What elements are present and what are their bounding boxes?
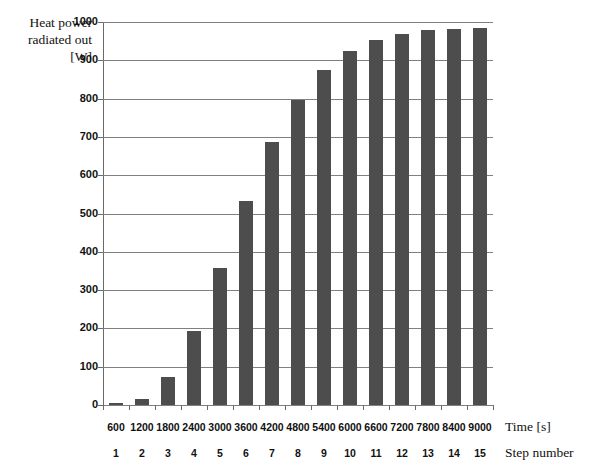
x-axis-time-label: 9000 xyxy=(468,421,491,433)
x-axis-step-label: 10 xyxy=(344,447,356,459)
x-axis-tick-mark xyxy=(389,405,390,410)
x-axis-time-label: 6000 xyxy=(338,421,361,433)
y-axis-tick-label: 0 xyxy=(58,398,98,410)
x-axis-time-label: 7800 xyxy=(416,421,439,433)
bar xyxy=(291,100,305,405)
y-axis-tick-label: 700 xyxy=(58,130,98,142)
x-axis-time-label: 3600 xyxy=(234,421,257,433)
bar xyxy=(213,268,227,405)
x-axis-tick-mark xyxy=(311,405,312,410)
x-axis-time-label: 8400 xyxy=(442,421,465,433)
bar xyxy=(473,28,487,405)
x-axis-step-label: 1 xyxy=(113,447,119,459)
bar xyxy=(265,142,279,406)
bar xyxy=(317,70,331,405)
x-axis-time-label: 600 xyxy=(107,421,125,433)
x-axis-tick-mark xyxy=(363,405,364,410)
x-axis-tick-marks xyxy=(103,405,494,411)
bar xyxy=(239,201,253,405)
y-axis-tick-label: 400 xyxy=(58,245,98,257)
x-axis-step-label: 9 xyxy=(321,447,327,459)
bar xyxy=(395,34,409,405)
x-axis-step-label: 14 xyxy=(448,447,460,459)
x-axis-tick-mark xyxy=(259,405,260,410)
bar xyxy=(161,377,175,405)
x-axis-tick-mark xyxy=(337,405,338,410)
bar-chart: Heat power radiated out [W] 010020030040… xyxy=(0,0,612,476)
x-axis-step-label: 15 xyxy=(474,447,486,459)
x-axis-time-label: 3000 xyxy=(208,421,231,433)
x-axis-step-label: 6 xyxy=(243,447,249,459)
x-axis-tick-mark xyxy=(129,405,130,410)
x-axis-tick-mark xyxy=(181,405,182,410)
y-axis-tick-label: 900 xyxy=(58,53,98,65)
x-axis-tick-mark xyxy=(285,405,286,410)
x-axis-step-label: 12 xyxy=(396,447,408,459)
y-axis-tick-label: 100 xyxy=(58,360,98,372)
x-axis-time-label: 1200 xyxy=(130,421,153,433)
x-axis-step-label: 3 xyxy=(165,447,171,459)
y-axis-tick-label: 600 xyxy=(58,168,98,180)
x-axis-tick-mark xyxy=(155,405,156,410)
x-axis-step-label: 7 xyxy=(269,447,275,459)
plot-area xyxy=(103,22,493,405)
y-axis-tick-labels: 01002003004005006007008009001000 xyxy=(53,22,98,405)
bar xyxy=(187,331,201,405)
x-axis-step-label: 4 xyxy=(191,447,197,459)
x-axis-tick-mark xyxy=(467,405,468,410)
x-axis-title-time: Time [s] xyxy=(505,419,551,435)
bar xyxy=(447,29,461,405)
y-axis-tick-label: 500 xyxy=(58,207,98,219)
y-axis-tick-label: 300 xyxy=(58,283,98,295)
x-axis-title-step: Step number xyxy=(505,445,574,461)
x-axis-tick-mark xyxy=(103,405,104,410)
x-axis-time-label: 2400 xyxy=(182,421,205,433)
x-axis-step-label: 13 xyxy=(422,447,434,459)
bar xyxy=(421,30,435,405)
gridline xyxy=(103,22,493,23)
x-axis-step-label: 2 xyxy=(139,447,145,459)
x-axis-step-label: 8 xyxy=(295,447,301,459)
x-axis-time-label: 6600 xyxy=(364,421,387,433)
x-axis-time-label: 7200 xyxy=(390,421,413,433)
x-axis-time-label: 1800 xyxy=(156,421,179,433)
x-axis-time-label: 5400 xyxy=(312,421,335,433)
x-axis-tick-mark xyxy=(233,405,234,410)
y-axis-tick-label: 200 xyxy=(58,321,98,333)
bar xyxy=(343,51,357,405)
x-axis-time-label: 4800 xyxy=(286,421,309,433)
x-axis-time-label: 4200 xyxy=(260,421,283,433)
x-axis-tick-mark xyxy=(441,405,442,410)
x-axis-tick-mark xyxy=(207,405,208,410)
y-axis-tick-label: 1000 xyxy=(58,15,98,27)
y-axis-tick-label: 800 xyxy=(58,92,98,104)
x-axis-step-label: 11 xyxy=(370,447,381,459)
x-axis-step-label: 5 xyxy=(217,447,223,459)
x-axis-tick-mark xyxy=(493,405,494,410)
x-axis-tick-mark xyxy=(415,405,416,410)
bar xyxy=(369,40,383,405)
